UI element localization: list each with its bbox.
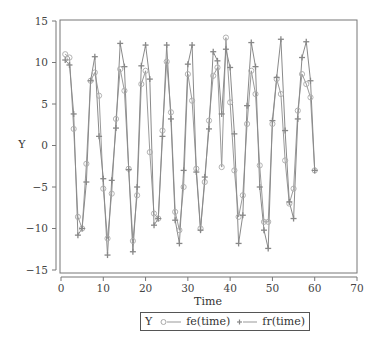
legend-item-fr: fr(time) — [236, 315, 305, 328]
data-point — [202, 174, 208, 180]
data-point — [92, 54, 98, 60]
y-tick-label: −5 — [33, 181, 48, 193]
circle-marker-icon — [160, 317, 182, 327]
data-point — [286, 199, 292, 205]
data-point — [71, 111, 77, 117]
data-point — [109, 177, 115, 183]
data-point — [176, 240, 182, 246]
data-point — [278, 36, 284, 42]
x-axis-title: Time — [194, 295, 222, 308]
x-tick-label: 20 — [139, 282, 152, 294]
data-point — [214, 58, 220, 64]
y-tick-label: 5 — [41, 98, 48, 110]
y-tick-label: −15 — [26, 264, 48, 276]
data-point — [210, 49, 216, 55]
data-point — [236, 240, 242, 246]
data-point — [113, 125, 119, 131]
data-point — [143, 42, 149, 48]
data-point — [75, 232, 81, 238]
data-point — [105, 252, 111, 258]
data-point — [117, 40, 123, 46]
y-tick-label: 10 — [35, 56, 48, 68]
x-tick-label: 60 — [308, 282, 321, 294]
legend-label-fr: fr(time) — [262, 315, 305, 328]
x-tick-label: 30 — [181, 282, 194, 294]
line-chart: −15−10−5051015 010203040506070 Time Y — [0, 0, 383, 348]
y-axis: −15−10−5051015 — [26, 15, 56, 276]
y-tick-label: −10 — [26, 222, 48, 234]
data-point — [265, 245, 271, 251]
data-point — [189, 42, 195, 48]
x-tick-label: 0 — [58, 282, 65, 294]
data-point — [147, 76, 153, 82]
data-point — [181, 167, 187, 173]
legend-item-fe: fe(time) — [160, 315, 230, 328]
plus-marker-icon — [236, 317, 258, 327]
data-point — [274, 74, 280, 80]
plot-frame — [60, 20, 357, 273]
x-tick-label: 50 — [266, 282, 279, 294]
y-tick-label: 0 — [41, 139, 48, 151]
series-line — [65, 39, 315, 255]
data-point — [295, 116, 301, 122]
y-axis-title: Y — [17, 138, 26, 151]
y-tick-label: 15 — [35, 15, 48, 27]
data-point — [100, 176, 106, 182]
data-point — [185, 61, 191, 67]
data-point — [303, 39, 309, 45]
chart-legend: Y fe(time) fr(time) — [140, 312, 310, 331]
x-axis: 010203040506070 — [58, 277, 364, 294]
series-lines — [65, 38, 315, 256]
data-point — [151, 222, 157, 228]
legend-label-fe: fe(time) — [186, 315, 230, 328]
data-point — [83, 179, 89, 185]
data-point — [206, 126, 212, 132]
data-point — [134, 184, 140, 190]
x-tick-label: 10 — [97, 282, 110, 294]
data-point — [299, 55, 305, 61]
data-point — [198, 227, 204, 233]
data-point — [168, 116, 174, 122]
data-point — [248, 40, 254, 46]
data-point — [138, 63, 144, 69]
x-tick-label: 40 — [223, 282, 236, 294]
data-point — [164, 42, 170, 48]
data-point — [261, 227, 267, 233]
data-point — [130, 249, 136, 255]
data-point — [291, 216, 297, 222]
x-tick-label: 70 — [350, 282, 363, 294]
data-point — [223, 46, 229, 52]
legend-title: Y — [145, 315, 152, 328]
data-point — [159, 133, 165, 139]
